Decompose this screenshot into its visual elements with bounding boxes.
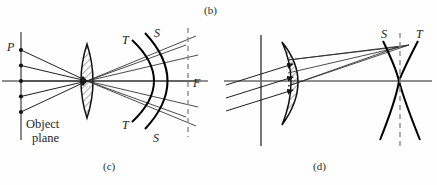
incoming-rays-d [226,64,293,111]
object-plane-label-line2: plane [32,132,59,145]
refracted-rays-d [288,45,409,86]
tangential-label-c-lower: T [122,118,129,133]
sagittal-label-c-upper: S [154,26,160,41]
point-label-p: P [7,40,14,55]
caption-d: (d) [313,160,326,172]
sagittal-label-d: S [381,27,387,42]
tangential-surface-curve-d [399,41,420,140]
panel-d-group [224,33,432,150]
focus-label-f: F [193,76,200,91]
optics-figure: (b) P F T S T S Object plane (c) S T (d) [0,0,437,185]
object-plane-label-line1: Object [26,118,59,131]
tangential-label-c-upper: T [122,33,129,48]
outgoing-rays-c [87,36,199,126]
caption-c: (c) [103,160,115,172]
sagittal-label-c-lower: S [153,131,159,146]
incoming-rays-c [21,50,87,112]
tangential-label-d: T [416,27,423,42]
sagittal-surface-curve-d [380,41,399,140]
caption-b: (b) [204,4,217,16]
figure-canvas [0,0,437,185]
